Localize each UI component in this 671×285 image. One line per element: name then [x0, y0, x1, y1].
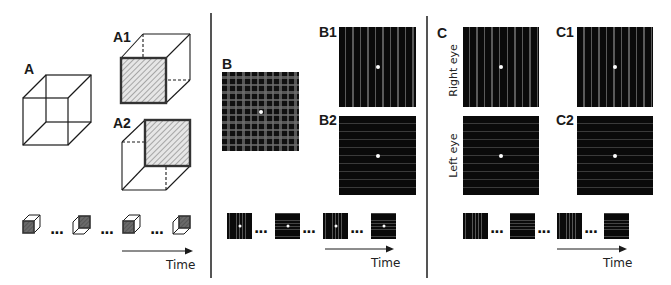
time-label: Time [603, 257, 632, 269]
time-arrow-icon [0, 0, 671, 285]
